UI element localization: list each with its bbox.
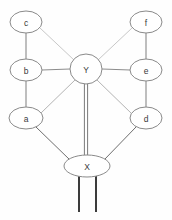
node-f[interactable]: f [130,11,162,33]
node-shape-b [10,59,42,81]
diagram-canvas: cfbeYadX [0,0,172,220]
graph-svg: cfbeYadX [0,0,172,220]
node-e[interactable]: e [130,59,162,81]
node-shape-X [64,155,110,177]
node-b[interactable]: b [10,59,42,81]
node-shape-d [130,107,162,129]
edge-f-Y [98,28,132,60]
edge-e-Y [102,69,130,70]
terminal-layer [79,174,96,212]
node-shape-f [130,11,162,33]
edge-c-Y [40,28,74,60]
node-c[interactable]: c [10,11,42,33]
edge-a-Y [41,80,75,113]
node-X[interactable]: X [64,155,110,177]
edge-d-X [104,127,136,160]
node-shape-e [130,59,162,81]
node-Y[interactable]: Y [70,54,102,84]
edge-d-Y [97,80,131,113]
node-layer: cfbeYadX [9,11,162,177]
node-d[interactable]: d [130,107,162,129]
node-shape-Y [70,54,102,84]
node-a[interactable]: a [9,107,43,129]
node-shape-c [10,11,42,33]
edge-a-X [36,127,70,160]
edge-layer [26,28,146,160]
node-shape-a [9,107,43,129]
edge-b-Y [42,69,70,70]
